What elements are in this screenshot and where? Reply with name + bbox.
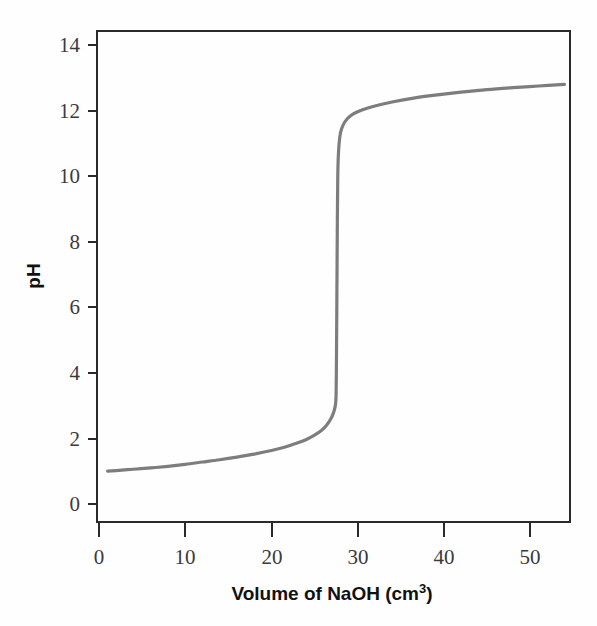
chart-page: 0 2 4 6 8 10 12 14 0 10 20 30 40 50 pH V… [0,0,597,626]
x-axis-title: Volume of NaOH (cm3) [231,581,432,604]
x-axis-title-superscript: 3 [419,581,426,596]
x-tick-marks [99,522,530,537]
x-tick-label-40: 40 [434,545,455,569]
x-tick-label-0: 0 [94,545,105,569]
y-tick-label-0: 0 [70,492,81,516]
y-tick-label-14: 14 [59,33,81,57]
titration-curve-line [108,84,565,471]
plot-frame [97,31,570,522]
x-tick-label-50: 50 [520,545,541,569]
y-tick-label-8: 8 [70,230,81,254]
y-tick-label-4: 4 [70,361,81,385]
x-axis-title-suffix: ) [426,583,432,604]
titration-curve-chart: 0 2 4 6 8 10 12 14 0 10 20 30 40 50 pH V… [0,0,597,626]
x-axis-title-main: Volume of NaOH (cm [231,583,419,604]
y-tick-label-2: 2 [70,427,81,451]
x-tick-label-10: 10 [175,545,196,569]
y-tick-label-10: 10 [59,164,80,188]
y-axis-title: pH [23,263,44,288]
y-tick-marks [88,45,97,504]
x-tick-label-20: 20 [262,545,283,569]
y-tick-label-6: 6 [70,295,81,319]
y-tick-label-12: 12 [59,99,80,123]
x-tick-label-30: 30 [348,545,369,569]
